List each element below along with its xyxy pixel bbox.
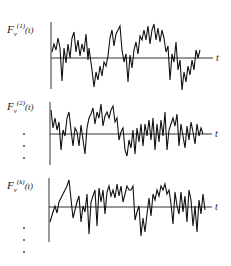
ellipsis-dot	[23, 227, 25, 229]
panel-k-time-axis-label: t	[215, 201, 218, 212]
panel-sample-function-2: Fv(2)(t) t	[6, 99, 218, 165]
panel-k-label: Fv(k)(t)	[6, 178, 33, 194]
ellipsis-dot	[23, 157, 25, 159]
random-process-ensemble-figure: Fv(1)(t) t Fv(2)(t) t Fv(k)(t) t	[0, 0, 231, 266]
panel-1-label: Fv(1)(t)	[6, 22, 34, 38]
panel-1-trace	[52, 24, 200, 90]
ellipsis-dot	[23, 251, 25, 253]
panel-k-trace	[50, 180, 205, 236]
ellipsis-dot	[23, 133, 25, 135]
panel-2-trace	[51, 104, 203, 156]
panel-sample-function-1: Fv(1)(t) t	[6, 22, 219, 90]
panel-1-time-axis-label: t	[216, 52, 219, 63]
ellipsis-dot	[23, 145, 25, 147]
panel-sample-function-k: Fv(k)(t) t	[6, 178, 218, 253]
panel-2-label: Fv(2)(t)	[6, 99, 34, 115]
ellipsis-dot	[23, 239, 25, 241]
panel-2-time-axis-label: t	[215, 128, 218, 139]
